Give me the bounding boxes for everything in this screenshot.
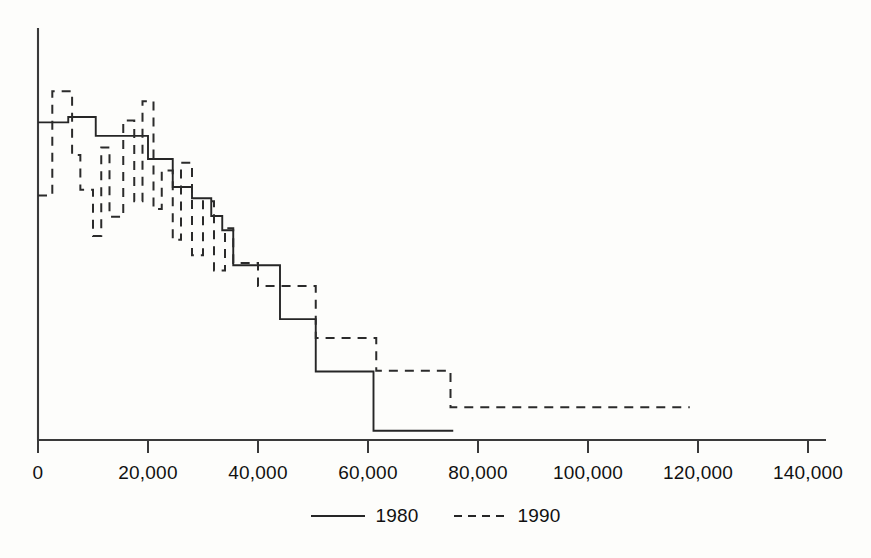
x-tick-label-3: 60,000 bbox=[338, 462, 397, 484]
chart-container: 020,00040,00060,00080,000100,000120,0001… bbox=[0, 0, 871, 558]
series-group bbox=[38, 91, 690, 438]
chart-legend: 19801990 bbox=[0, 498, 871, 534]
legend-swatch-solid bbox=[310, 510, 366, 522]
x-tick-label-2: 40,000 bbox=[228, 462, 287, 484]
legend-entry-1990[interactable]: 1990 bbox=[453, 505, 561, 527]
x-tick-label-0: 0 bbox=[33, 462, 44, 484]
legend-label-1990: 1990 bbox=[518, 505, 561, 527]
legend-label-1980: 1980 bbox=[375, 505, 418, 527]
legend-swatch-dashed bbox=[453, 510, 509, 522]
x-tick-label-4: 80,000 bbox=[448, 462, 507, 484]
x-tick-label-6: 120,000 bbox=[663, 462, 733, 484]
x-tick-label-7: 140,000 bbox=[773, 462, 843, 484]
legend-entry-1980[interactable]: 1980 bbox=[310, 505, 418, 527]
axis-group bbox=[37, 28, 826, 453]
series-line-1990 bbox=[38, 91, 690, 407]
x-tick-label-1: 20,000 bbox=[118, 462, 177, 484]
x-tick-label-5: 100,000 bbox=[553, 462, 623, 484]
